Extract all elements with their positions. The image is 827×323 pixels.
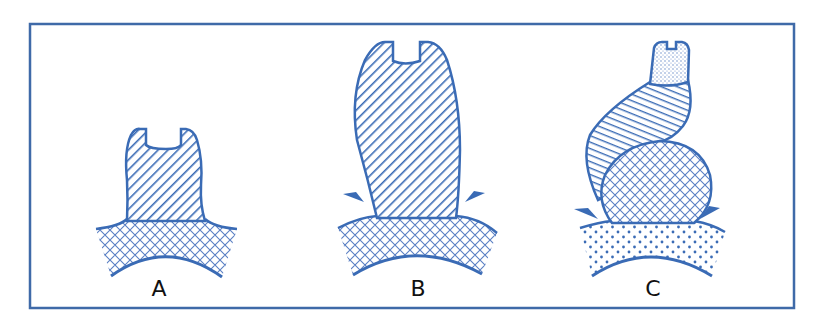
panel-b-base <box>338 216 497 275</box>
diagram-canvas: A B C <box>0 0 827 323</box>
panel-a <box>96 129 237 277</box>
panel-b-label: B <box>410 276 425 301</box>
panel-b-arrow-left <box>343 192 364 202</box>
panel-b <box>338 42 497 275</box>
panel-c <box>574 42 725 276</box>
panel-c-base <box>580 221 725 276</box>
panel-c-arrow-left <box>574 208 598 219</box>
panel-b-arrow-right <box>465 191 485 202</box>
panel-a-tube <box>126 129 205 221</box>
panel-b-tube <box>355 42 460 218</box>
panel-a-label: A <box>151 276 166 301</box>
panel-c-tip <box>650 42 689 86</box>
panel-c-label: C <box>645 276 660 301</box>
panel-a-base <box>96 219 237 277</box>
